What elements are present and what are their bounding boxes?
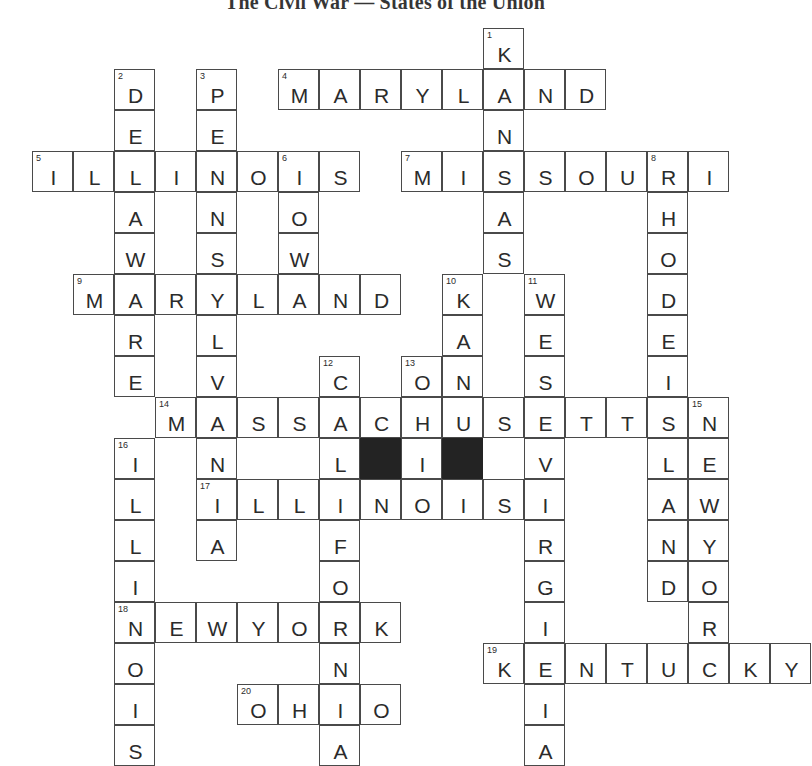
crossword-cell[interactable]: I (319, 684, 360, 725)
crossword-cell[interactable]: E (524, 397, 565, 438)
crossword-cell[interactable]: I (442, 479, 483, 520)
crossword-cell[interactable]: H (278, 684, 319, 725)
crossword-cell[interactable]: R (524, 520, 565, 561)
crossword-cell[interactable]: Y (196, 274, 237, 315)
crossword-cell[interactable]: I (524, 479, 565, 520)
crossword-cell[interactable]: T (606, 397, 647, 438)
crossword-cell[interactable]: D (360, 274, 401, 315)
crossword-cell[interactable]: 10K (442, 274, 483, 315)
crossword-cell[interactable]: 14M (155, 397, 196, 438)
crossword-cell[interactable]: W (278, 233, 319, 274)
crossword-cell[interactable]: A (524, 725, 565, 766)
crossword-cell[interactable]: N (565, 643, 606, 684)
crossword-cell[interactable]: R (114, 315, 155, 356)
crossword-cell[interactable]: N (442, 356, 483, 397)
crossword-cell[interactable]: 1K (483, 28, 524, 69)
crossword-cell[interactable]: S (319, 151, 360, 192)
crossword-cell[interactable]: I (442, 151, 483, 192)
crossword-cell[interactable]: A (114, 192, 155, 233)
crossword-cell[interactable]: V (524, 438, 565, 479)
crossword-cell[interactable]: E (524, 315, 565, 356)
crossword-cell[interactable]: E (196, 110, 237, 151)
crossword-cell[interactable]: 18N (114, 602, 155, 643)
crossword-cell[interactable]: O (565, 151, 606, 192)
crossword-cell[interactable]: Y (401, 69, 442, 110)
crossword-cell[interactable]: I (524, 602, 565, 643)
crossword-cell[interactable]: L (278, 479, 319, 520)
crossword-cell[interactable]: 16I (114, 438, 155, 479)
crossword-cell[interactable]: O (278, 192, 319, 233)
crossword-cell[interactable]: 20O (237, 684, 278, 725)
crossword-cell[interactable]: 5I (32, 151, 73, 192)
crossword-cell[interactable]: D (647, 274, 688, 315)
crossword-cell[interactable]: I (319, 479, 360, 520)
crossword-cell[interactable]: 2D (114, 69, 155, 110)
crossword-cell[interactable]: R (360, 69, 401, 110)
crossword-cell[interactable]: U (606, 151, 647, 192)
crossword-cell[interactable]: L (114, 151, 155, 192)
crossword-cell[interactable]: T (606, 643, 647, 684)
crossword-cell[interactable]: E (114, 110, 155, 151)
crossword-cell[interactable]: I (524, 684, 565, 725)
crossword-cell[interactable]: W (196, 602, 237, 643)
crossword-cell[interactable]: O (237, 151, 278, 192)
crossword-cell[interactable]: S (278, 397, 319, 438)
crossword-cell[interactable]: N (647, 520, 688, 561)
crossword-cell[interactable]: 17I (196, 479, 237, 520)
crossword-cell[interactable]: L (114, 520, 155, 561)
crossword-cell[interactable]: 12C (319, 356, 360, 397)
crossword-cell[interactable]: R (319, 602, 360, 643)
crossword-cell[interactable]: O (319, 561, 360, 602)
crossword-cell[interactable]: I (114, 561, 155, 602)
crossword-cell[interactable]: A (442, 315, 483, 356)
crossword-cell[interactable]: 6I (278, 151, 319, 192)
crossword-cell[interactable]: 4M (278, 69, 319, 110)
crossword-cell[interactable]: O (360, 684, 401, 725)
crossword-cell[interactable]: 8R (647, 151, 688, 192)
crossword-cell[interactable]: Y (237, 602, 278, 643)
crossword-cell[interactable]: I (688, 151, 729, 192)
crossword-cell[interactable]: R (688, 602, 729, 643)
crossword-cell[interactable]: A (196, 397, 237, 438)
crossword-cell[interactable]: S (196, 233, 237, 274)
crossword-cell[interactable]: O (688, 561, 729, 602)
crossword-cell[interactable]: 9M (73, 274, 114, 315)
crossword-cell[interactable]: L (73, 151, 114, 192)
crossword-cell[interactable]: N (524, 69, 565, 110)
crossword-cell[interactable]: K (360, 602, 401, 643)
crossword-cell[interactable]: N (319, 274, 360, 315)
crossword-cell[interactable]: A (319, 725, 360, 766)
crossword-cell[interactable]: L (237, 479, 278, 520)
crossword-cell[interactable]: I (114, 684, 155, 725)
crossword-cell[interactable]: 11W (524, 274, 565, 315)
crossword-cell[interactable]: N (196, 151, 237, 192)
crossword-cell[interactable]: C (360, 397, 401, 438)
crossword-cell[interactable]: 15N (688, 397, 729, 438)
crossword-cell[interactable]: L (319, 438, 360, 479)
crossword-cell[interactable]: C (688, 643, 729, 684)
crossword-cell[interactable]: E (155, 602, 196, 643)
crossword-cell[interactable]: E (524, 643, 565, 684)
crossword-cell[interactable]: 7M (401, 151, 442, 192)
crossword-cell[interactable]: I (401, 438, 442, 479)
crossword-cell[interactable]: S (237, 397, 278, 438)
crossword-cell[interactable]: W (114, 233, 155, 274)
crossword-cell[interactable]: S (524, 356, 565, 397)
crossword-cell[interactable]: A (647, 479, 688, 520)
crossword-cell[interactable]: O (401, 479, 442, 520)
crossword-cell[interactable]: G (524, 561, 565, 602)
crossword-cell[interactable]: U (442, 397, 483, 438)
crossword-cell[interactable]: E (114, 356, 155, 397)
crossword-cell[interactable]: L (237, 274, 278, 315)
crossword-cell[interactable]: S (483, 233, 524, 274)
crossword-cell[interactable]: H (401, 397, 442, 438)
crossword-cell[interactable]: I (647, 356, 688, 397)
crossword-cell[interactable]: S (647, 397, 688, 438)
crossword-cell[interactable]: N (196, 438, 237, 479)
crossword-cell[interactable]: A (483, 192, 524, 233)
crossword-cell[interactable]: O (647, 233, 688, 274)
crossword-cell[interactable]: O (114, 643, 155, 684)
crossword-cell[interactable]: S (483, 151, 524, 192)
crossword-cell[interactable]: S (483, 479, 524, 520)
